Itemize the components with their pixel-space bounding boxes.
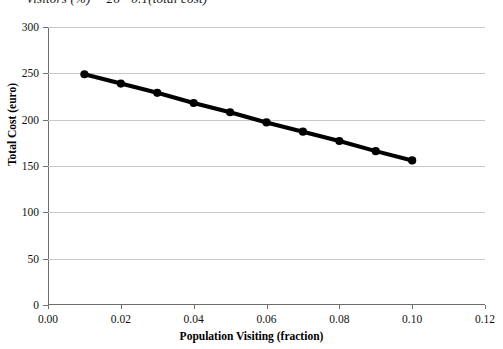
x-axis-tick-label: 0.06	[256, 313, 276, 325]
data-point-marker	[408, 156, 416, 164]
data-point-marker	[80, 70, 88, 78]
y-axis-title: Total Cost (euro)	[6, 83, 18, 166]
y-axis-tick-label: 0	[33, 299, 39, 311]
data-point-marker	[299, 128, 307, 136]
plot-area: 050100150200250300 0.000.020.040.060.080…	[48, 27, 485, 305]
x-axis-tick	[121, 305, 122, 309]
x-axis-tick	[194, 305, 195, 309]
x-axis-tick-label: 0.00	[38, 313, 58, 325]
y-axis-tick-label: 300	[22, 21, 39, 33]
equation-caption-text: Visitors (%) = 26 - 0.1(total cost)	[26, 0, 207, 7]
data-point-marker	[153, 89, 161, 97]
x-axis-tick	[412, 305, 413, 309]
x-axis-tick-label: 0.08	[329, 313, 349, 325]
data-point-marker	[226, 108, 234, 116]
x-axis-tick	[339, 305, 340, 309]
data-point-marker	[117, 79, 125, 87]
x-axis-tick	[48, 305, 49, 309]
x-axis-tick-label: 0.12	[475, 313, 495, 325]
x-axis-title: Population Visiting (fraction)	[0, 330, 503, 342]
x-axis-tick-label: 0.02	[111, 313, 131, 325]
data-point-marker	[262, 118, 270, 126]
x-axis-tick-label: 0.04	[184, 313, 204, 325]
equation-caption-clipped: Visitors (%) = 26 - 0.1(total cost)	[0, 0, 503, 9]
data-point-marker	[335, 137, 343, 145]
x-axis-tick	[267, 305, 268, 309]
x-axis-tick-label: 0.10	[402, 313, 422, 325]
series-line	[84, 74, 412, 160]
data-point-marker	[372, 147, 380, 155]
chart-canvas: Visitors (%) = 26 - 0.1(total cost) 0501…	[0, 0, 503, 349]
y-axis-tick-label: 200	[22, 114, 39, 126]
y-axis-tick-label: 250	[22, 67, 39, 79]
y-axis-tick-label: 100	[22, 206, 39, 218]
data-series-layer	[48, 27, 485, 305]
x-axis-tick	[485, 305, 486, 309]
y-axis-tick-label: 50	[28, 253, 40, 265]
data-point-marker	[190, 99, 198, 107]
y-axis-tick-label: 150	[22, 160, 39, 172]
